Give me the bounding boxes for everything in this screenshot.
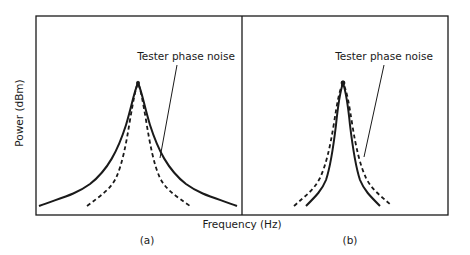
panel-b-peak-marker [341,81,346,86]
panel-a [39,65,237,206]
y-axis-label: Power (dBm) [13,79,25,146]
panel-b [294,65,392,206]
diagram-canvas [0,0,470,255]
panel-a-dashed-curve [87,83,190,206]
panel-a-annotation-leader [160,65,177,158]
panel-b-solid-curve [306,83,380,206]
panel-b-annotation: Tester phase noise [335,50,433,62]
phase-noise-figure: Power (dBm) Frequency (Hz) Tester phase … [0,0,470,255]
panel-a-caption: (a) [140,234,155,246]
panel-b-annotation-leader [364,65,384,157]
panel-b-dashed-curve [294,83,392,206]
panel-a-peak-marker [136,81,140,85]
panel-a-solid-curve [39,83,237,206]
panel-b-caption: (b) [343,234,358,246]
x-axis-label: Frequency (Hz) [202,218,281,230]
panel-a-annotation: Tester phase noise [137,50,235,62]
